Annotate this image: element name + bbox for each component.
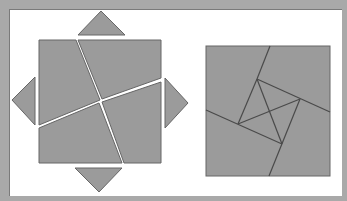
bottom-triangle	[75, 168, 122, 192]
top-triangle	[78, 11, 125, 35]
left-figure	[12, 11, 188, 192]
right-figure	[206, 46, 330, 176]
left-triangle	[12, 77, 35, 125]
right-triangle	[165, 78, 188, 128]
outer-square	[206, 46, 330, 176]
dissection-diagram	[0, 0, 347, 201]
